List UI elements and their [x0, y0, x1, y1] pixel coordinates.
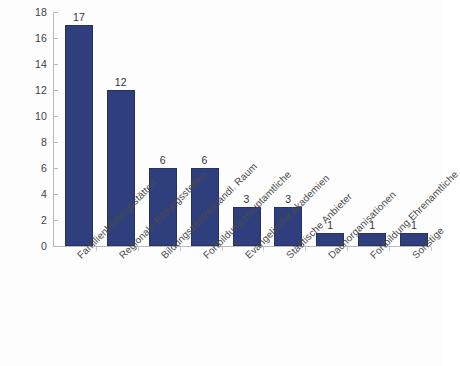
x-axis-tick-mark	[431, 247, 432, 251]
y-axis-tick-label: 18	[0, 6, 53, 18]
x-axis-tick-mark	[389, 247, 390, 251]
y-axis-tick-label: 2	[0, 214, 53, 226]
y-axis-tick-label: 4	[0, 188, 53, 200]
y-axis-tick-label: 8	[0, 136, 53, 148]
y-axis-tick-label: 16	[0, 32, 53, 44]
y-axis-tick-label: 14	[0, 58, 53, 70]
bar-value-label: 12	[95, 76, 147, 88]
bar	[65, 25, 93, 246]
x-axis-tick-mark	[347, 247, 348, 251]
y-axis-tick-label: 0	[0, 240, 53, 252]
bar-value-label: 17	[53, 11, 105, 23]
y-axis-tick-label: 12	[0, 84, 53, 96]
y-axis-tick-label: 10	[0, 110, 53, 122]
y-axis-tick-label: 6	[0, 162, 53, 174]
bar-value-label: 6	[179, 154, 231, 166]
x-axis-tick-mark	[96, 247, 97, 251]
x-axis-tick-mark	[305, 247, 306, 251]
